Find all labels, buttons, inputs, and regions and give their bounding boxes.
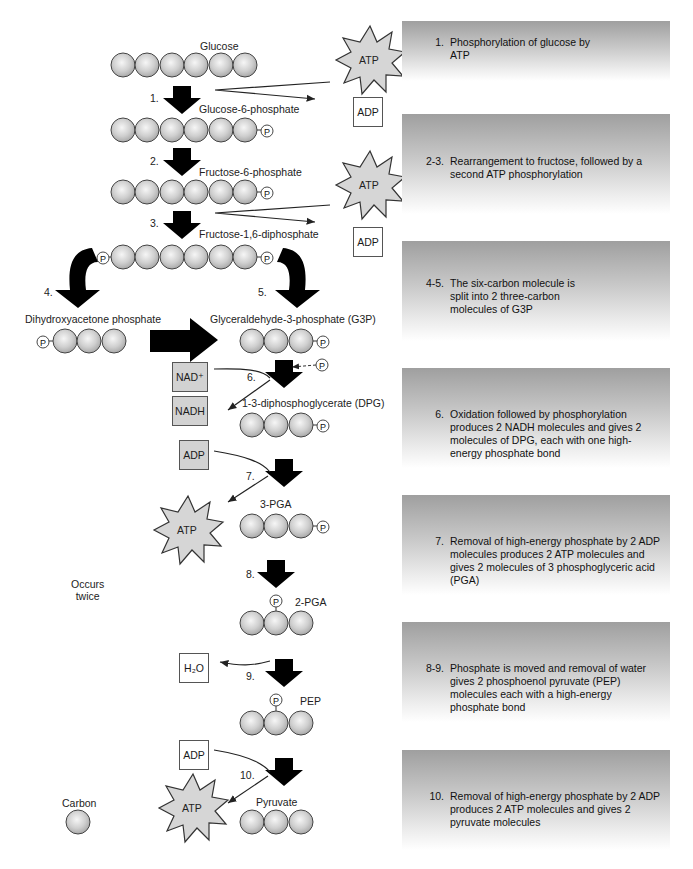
step-9-arrow — [265, 659, 303, 687]
water-box: H₂O — [179, 653, 209, 683]
g3p-chain — [240, 329, 329, 353]
label-dhap: Dihydroxyacetone phosphate — [25, 313, 161, 325]
label-pep: PEP — [300, 695, 321, 707]
step-num-6: 6. — [247, 371, 256, 383]
label-f16dp: Fructose-1,6-diphosphate — [199, 228, 319, 240]
step-5-arrow — [275, 248, 320, 308]
adp-box-2: ADP — [353, 227, 383, 257]
panel-step-2-3: 2-3.Rearrangement to fructose, followed … — [402, 114, 670, 214]
dpg-chain — [240, 413, 329, 437]
step-num-7: 7. — [246, 470, 255, 482]
label-f6p: Fructose-6-phosphate — [199, 166, 302, 178]
label-2pga: 2-PGA — [295, 596, 327, 608]
panel-step-7: 7.Removal of high-energy phosphate by 2 … — [402, 495, 670, 595]
step-num-5: 5. — [258, 286, 267, 298]
label-g3p: Glyceraldehyde-3-phosphate (G3P) — [210, 313, 376, 325]
step-num-2: 2. — [150, 155, 159, 167]
step-6-arrow — [265, 360, 303, 388]
glucose-chain — [111, 53, 257, 77]
step-num-3: 3. — [150, 217, 159, 229]
label-glucose: Glucose — [200, 40, 239, 52]
nadh-box: NADH — [172, 396, 208, 426]
step-3-arrow — [163, 211, 201, 239]
adp-box-3: ADP — [179, 440, 209, 470]
step-num-10: 10. — [240, 769, 255, 781]
carbon-legend-ball — [66, 810, 90, 834]
atp-label-4: ATP — [182, 802, 202, 814]
step-10-arrow — [265, 758, 303, 786]
step-num-1: 1. — [150, 92, 159, 104]
panel-step-1: 1.Phosphorylation of glucose by ATP — [402, 21, 670, 81]
pyruvate-chain — [240, 810, 313, 834]
nad-plus-box: NAD⁺ — [172, 362, 208, 392]
occurs-twice-note: Occurs twice — [71, 578, 104, 602]
label-3pga: 3-PGA — [260, 498, 292, 510]
adp-box-1: ADP — [353, 97, 383, 127]
adp-box-4: ADP — [179, 740, 209, 770]
step-num-9: 9. — [246, 670, 255, 682]
f6p-chain — [111, 180, 273, 204]
dhap-chain — [37, 329, 126, 353]
step-4-arrow — [55, 248, 100, 308]
step-1-arrow — [163, 86, 201, 114]
pga3-chain — [240, 514, 329, 538]
panel-step-4-5: 4-5.The six-carbon molecule is split int… — [402, 241, 670, 341]
label-pyruvate: Pyruvate — [256, 796, 297, 808]
atp-label-3: ATP — [177, 524, 197, 536]
panel-step-8-9: 8-9.Phosphate is moved and removal of wa… — [402, 622, 670, 722]
g6p-chain — [111, 118, 273, 142]
step-num-8: 8. — [246, 568, 255, 580]
step-8-arrow — [257, 560, 295, 588]
atp-label-2: ATP — [359, 179, 379, 191]
step-num-4: 4. — [44, 286, 53, 298]
label-g6p: Glucose-6-phosphate — [199, 103, 299, 115]
label-dpg: 1-3-diphosphoglycerate (DPG) — [242, 397, 384, 409]
carbon-legend-label: Carbon — [62, 797, 96, 809]
panel-step-10: 10.Removal of high-energy phosphate by 2… — [402, 750, 670, 850]
atp-label-1: ATP — [359, 54, 379, 66]
step-2-arrow — [163, 148, 201, 176]
step-7-arrow — [265, 459, 303, 487]
f16dp-chain — [97, 245, 273, 269]
panel-step-6: 6.Oxidation followed by phosphorylation … — [402, 368, 670, 468]
